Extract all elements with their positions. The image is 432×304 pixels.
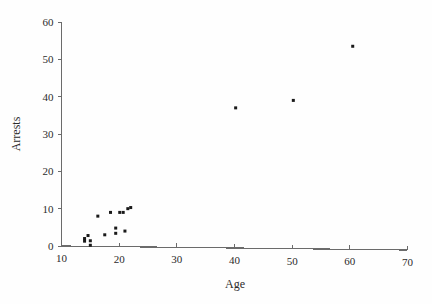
data-point xyxy=(103,233,106,236)
data-point xyxy=(126,207,129,210)
data-point xyxy=(114,232,117,235)
x-tick-label: 10 xyxy=(56,253,67,264)
x-tick-label: 40 xyxy=(229,255,240,266)
data-point xyxy=(89,239,92,242)
scatter-plot-figure: 010203040506010203040506070 Age Arrests xyxy=(0,0,432,304)
data-point xyxy=(129,206,132,209)
y-tick-label: 60 xyxy=(43,17,54,28)
x-tick-label: 60 xyxy=(344,256,355,267)
y-tick-label: 20 xyxy=(43,166,54,177)
data-point xyxy=(96,215,99,218)
x-tick-label: 50 xyxy=(287,256,298,267)
x-axis-label: Age xyxy=(225,277,245,292)
data-point xyxy=(122,211,125,214)
data-point xyxy=(109,211,112,214)
y-tick-label: 30 xyxy=(43,129,54,140)
y-tick-label: 50 xyxy=(43,54,54,65)
x-tick-label: 20 xyxy=(114,254,125,265)
data-point xyxy=(89,244,92,247)
data-point xyxy=(114,227,117,230)
x-tick-label: 70 xyxy=(402,257,413,268)
y-axis-label: Arrests xyxy=(9,117,24,152)
data-point xyxy=(234,106,237,109)
data-point xyxy=(351,45,354,48)
data-point xyxy=(83,240,86,243)
data-point xyxy=(292,99,295,102)
y-tick-label: 10 xyxy=(43,203,54,214)
y-tick-label: 40 xyxy=(43,91,54,102)
data-point xyxy=(123,230,126,233)
data-point xyxy=(87,234,90,237)
x-tick-label: 30 xyxy=(171,254,182,265)
data-point xyxy=(83,237,86,240)
y-tick-label: 0 xyxy=(48,241,54,252)
data-point xyxy=(118,211,121,214)
axes xyxy=(58,22,408,250)
data-points xyxy=(83,45,354,247)
